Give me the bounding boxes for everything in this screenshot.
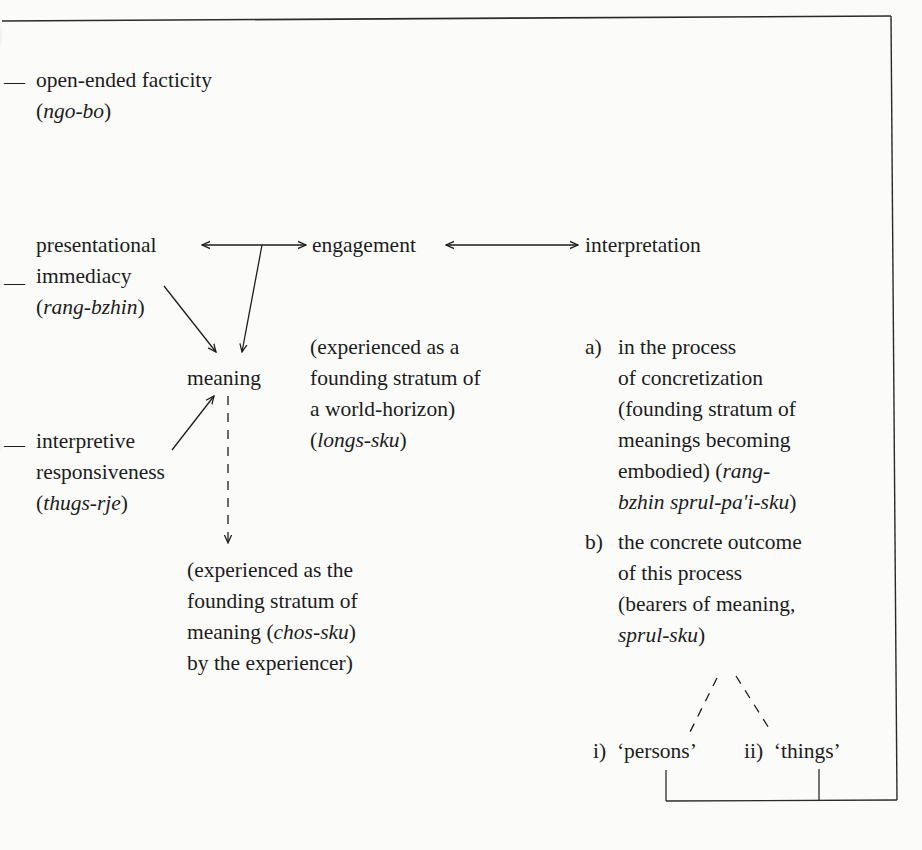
item-a-line: embodied) ( (618, 459, 722, 483)
experiencer-line: meaning ( (187, 620, 274, 644)
sub-item-label: ‘persons’ (617, 739, 697, 763)
sub-item-persons: i) ‘persons’ (593, 736, 697, 767)
node-experiencer: (experienced as the founding stratum of … (187, 555, 358, 679)
node-interpretive-responsiveness: interpretive responsiveness (thugs-rje) (36, 426, 165, 519)
node-interpretation: interpretation (585, 230, 701, 261)
sub-item-marker: ii) (744, 739, 763, 763)
item-a-line: in the process (618, 335, 736, 359)
frame-right-line (891, 16, 897, 800)
item-b-line: of this process (618, 561, 742, 585)
interpretive-term: thugs-rje (43, 491, 121, 515)
item-b-marker: b) (585, 527, 603, 558)
node-world-horizon: (experienced as a founding stratum of a … (310, 332, 481, 456)
experiencer-line: founding stratum of (187, 589, 358, 613)
item-b-text: the concrete outcome of this process (be… (618, 527, 802, 651)
dashed-line-to-things (736, 676, 772, 733)
arrow-engagement-to-meaning (242, 245, 262, 352)
arrow-interpretive-to-meaning (172, 396, 214, 450)
presentational-line2: immediacy (36, 264, 132, 288)
experiencer-line: (experienced as the (187, 558, 353, 582)
presentational-term: rang-bzhin (43, 295, 137, 319)
node-facticity: open-ended facticity (ngo-bo) (36, 65, 212, 127)
item-a-line: of concretization (618, 366, 763, 390)
interpretive-line1: interpretive (36, 429, 135, 453)
frame-top-line (2, 16, 891, 21)
item-a-term: bzhin sprul-pa'i-sku (618, 490, 789, 514)
facticity-label: open-ended facticity (36, 68, 212, 92)
experiencer-line: by the experiencer) (187, 651, 353, 675)
item-a-marker: a) (585, 332, 602, 363)
sub-item-marker: i) (593, 739, 606, 763)
world-horizon-line: founding stratum of (310, 366, 481, 390)
item-a-text: in the process of concretization (foundi… (618, 332, 796, 518)
node-presentational-immediacy: presentational immediacy (rang-bzhin) (36, 230, 157, 323)
item-a-term: rang- (722, 459, 770, 483)
bracket-bottom-line (666, 800, 897, 801)
item-b-line: ) (698, 623, 705, 647)
edge-mark: — (4, 433, 25, 457)
sub-item-things: ii) ‘things’ (744, 736, 841, 767)
item-a-line: (founding stratum of (618, 397, 796, 421)
world-horizon-line: a world-horizon) (310, 397, 455, 421)
item-a-line: ) (789, 490, 796, 514)
dashed-line-to-persons (690, 678, 717, 732)
world-horizon-term: longs-sku (317, 428, 399, 452)
presentational-line1: presentational (36, 233, 157, 257)
experiencer-line: ) (349, 620, 356, 644)
item-b-term: sprul-sku (618, 623, 698, 647)
experiencer-term: chos-sku (274, 620, 349, 644)
item-a-line: meanings becoming (618, 428, 791, 452)
edge-mark: — (4, 70, 25, 94)
arrow-immediacy-to-meaning (164, 286, 216, 352)
sub-item-label: ‘things’ (774, 739, 841, 763)
world-horizon-line: (experienced as a (310, 335, 459, 359)
node-meaning: meaning (187, 363, 261, 394)
item-b-line: the concrete outcome (618, 530, 802, 554)
edge-mark: — (4, 271, 25, 295)
facticity-term: ngo-bo (43, 99, 104, 123)
node-engagement: engagement (312, 230, 416, 261)
item-b-line: (bearers of meaning, (618, 592, 795, 616)
interpretive-line2: responsiveness (36, 460, 165, 484)
